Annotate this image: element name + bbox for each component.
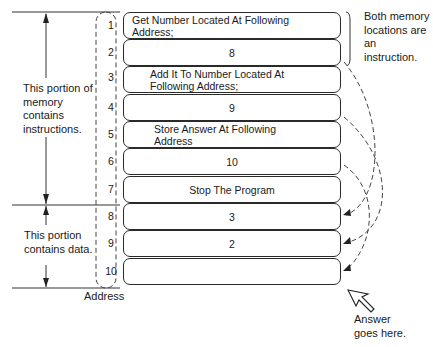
arrow-head-icon: [343, 264, 351, 271]
arrow-up-icon: [43, 206, 49, 215]
address-2: 2: [103, 46, 119, 58]
arrow-down-icon: [43, 194, 49, 204]
pointer-6-to-10: [344, 165, 369, 270]
address-6: 6: [103, 155, 119, 167]
cell-content: 2: [221, 238, 243, 250]
address-7: 7: [103, 183, 119, 195]
memory-cell-7: Stop The Program: [123, 176, 341, 203]
arrow-up-icon: [43, 13, 49, 23]
both-locations-note: Both memory locations are an instruction…: [364, 10, 432, 64]
memory-cell-6: 10: [123, 148, 341, 175]
pointer-4-to-9: [344, 117, 383, 243]
memory-cell-8: 3: [123, 203, 341, 230]
address-1: 1: [103, 19, 119, 31]
cell-content: 9: [221, 102, 243, 114]
arrow-down-icon: [43, 278, 49, 287]
arrow-head-icon: [343, 209, 351, 216]
address-3: 3: [103, 71, 119, 83]
cell-content: 3: [221, 211, 243, 223]
instructions-region-label: This portion of memory contains instruct…: [23, 82, 103, 136]
pointer-2-to-8: [344, 62, 375, 215]
memory-cell-3: Add It To Number Located At Following Ad…: [123, 66, 341, 93]
arrow-head-icon: [343, 237, 351, 244]
memory-cell-9: 2: [123, 230, 341, 257]
cell-content: Stop The Program: [181, 184, 283, 196]
cell-content: Store Answer At Following Address: [124, 123, 340, 147]
bracket-icon: [346, 12, 350, 66]
data-region-label: This portion contains data.: [24, 229, 94, 256]
address-5: 5: [103, 128, 119, 140]
answer-pointer-icon: [348, 290, 374, 312]
address-9: 9: [103, 237, 119, 249]
address-8: 8: [103, 210, 119, 222]
memory-cell-4: 9: [123, 94, 341, 121]
cell-content: Get Number Located At Following Address;: [124, 14, 340, 38]
address-column-label: Address: [84, 290, 124, 304]
memory-cell-2: 8: [123, 39, 341, 66]
memory-cell-1: Get Number Located At Following Address;: [123, 12, 341, 39]
memory-cell-10: [123, 258, 341, 285]
cell-content: 8: [221, 47, 243, 59]
answer-note: Answer goes here.: [354, 313, 414, 340]
address-4: 4: [103, 101, 119, 113]
cell-content: Add It To Number Located At Following Ad…: [136, 68, 340, 92]
cell-content: 10: [218, 156, 246, 168]
address-10: 10: [103, 265, 119, 277]
memory-cell-5: Store Answer At Following Address: [123, 121, 341, 148]
